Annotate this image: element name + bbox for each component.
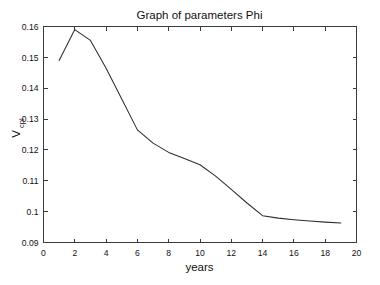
x-tick-label: 16 — [289, 248, 299, 258]
y-tick-label: 0.11 — [22, 176, 38, 186]
x-tick-label: 10 — [195, 248, 205, 258]
y-tick-label: 0.14 — [22, 83, 39, 93]
y-tick-label: 0.15 — [22, 53, 39, 63]
x-tick-label: 0 — [41, 248, 46, 258]
x-tick-label: 8 — [166, 248, 171, 258]
x-tick-label: 14 — [258, 248, 268, 258]
x-tick-label: 6 — [135, 248, 140, 258]
x-tick-label: 2 — [72, 248, 77, 258]
chart-canvas: Graph of parameters Phi 0246810121416182… — [0, 0, 380, 285]
x-axis-label: years — [185, 261, 213, 273]
chart-figure: Graph of parameters Phi 0246810121416182… — [0, 0, 380, 285]
y-tick-label: 0.1 — [27, 207, 39, 217]
x-tick-label: 18 — [320, 248, 330, 258]
y-tick-label: 0.12 — [22, 145, 39, 155]
y-axis-label: V — [10, 130, 22, 138]
x-tick-label: 4 — [104, 248, 109, 258]
x-tick-label: 12 — [227, 248, 237, 258]
chart-title: Graph of parameters Phi — [137, 9, 263, 21]
y-axis-label-subscript: cpl — [17, 118, 26, 128]
y-tick-label: 0.16 — [22, 22, 39, 32]
y-tick-label: 0.09 — [22, 238, 39, 248]
x-tick-label: 20 — [352, 248, 362, 258]
